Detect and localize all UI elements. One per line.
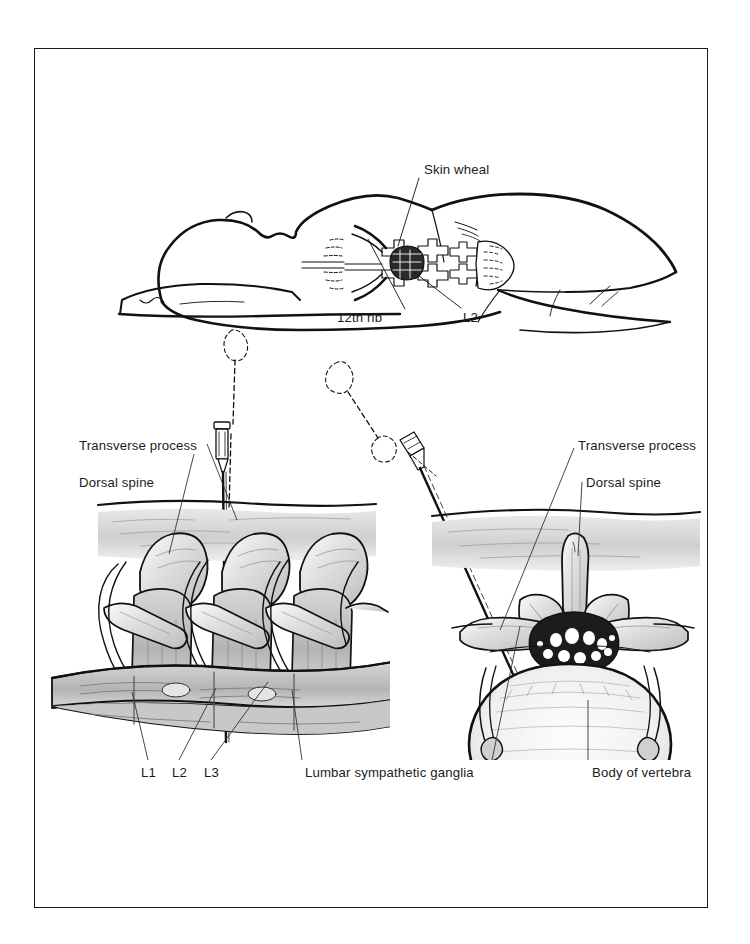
- label-transverse-process-right: Transverse process: [578, 438, 696, 453]
- illustration-artwork: [0, 0, 750, 944]
- label-lumbar-sympathetic-ganglia: Lumbar sympathetic ganglia: [305, 765, 474, 780]
- top-panel-patient: [119, 178, 676, 333]
- bottom-left-panel-anatomy: [52, 501, 392, 734]
- needle-hub-right: [400, 432, 424, 470]
- label-body-of-vertebra: Body of vertebra: [592, 765, 691, 780]
- needle-hub-left: [214, 422, 230, 472]
- label-l1: L1: [141, 765, 156, 780]
- label-l2-bottom: L2: [172, 765, 187, 780]
- skin-wheal-leader: [398, 178, 419, 246]
- psoas-ganglia-layer: [52, 662, 392, 734]
- label-12th-rib: 12th rib: [337, 310, 382, 325]
- label-dorsal-spine-right: Dorsal spine: [586, 475, 661, 490]
- spine-surface-landmarks: [302, 226, 514, 300]
- label-transverse-process-left: Transverse process: [79, 438, 197, 453]
- label-dorsal-spine-left: Dorsal spine: [79, 475, 154, 490]
- label-l3: L3: [204, 765, 219, 780]
- label-l2-top: L2: [463, 310, 478, 325]
- figure-root: Skin wheal 12th rib L2 Transverse proces…: [0, 0, 750, 944]
- label-skin-wheal: Skin wheal: [424, 162, 489, 177]
